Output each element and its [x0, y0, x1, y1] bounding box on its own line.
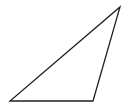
side-hypotenuse — [10, 7, 120, 101]
triangle-diagram — [0, 0, 129, 107]
side-right — [93, 7, 120, 101]
